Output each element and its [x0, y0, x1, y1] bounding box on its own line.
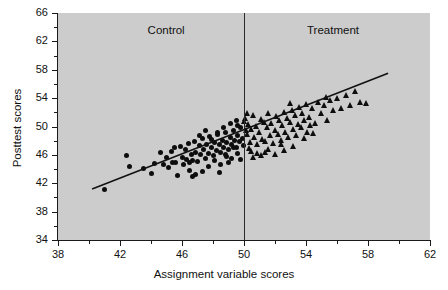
y-tick-label-62: 62	[22, 34, 48, 46]
x-tick-minor	[89, 241, 90, 244]
x-tick-label-58: 58	[353, 248, 383, 260]
y-tick-46	[52, 155, 57, 156]
y-tick-minor	[54, 112, 57, 113]
y-tick-label-50: 50	[22, 120, 48, 132]
y-tick-minor	[54, 141, 57, 142]
x-tick-label-46: 46	[167, 248, 197, 260]
x-tick-50	[244, 241, 245, 246]
y-tick-label-54: 54	[22, 91, 48, 103]
y-tick-38	[52, 212, 57, 213]
y-tick-label-42: 42	[22, 176, 48, 188]
x-tick-38	[58, 241, 59, 246]
x-tick-minor	[151, 241, 152, 244]
y-tick-62	[52, 41, 57, 42]
group-label-control: Control	[148, 24, 185, 36]
x-tick-minor	[213, 241, 214, 244]
x-tick-label-42: 42	[105, 248, 135, 260]
x-tick-58	[368, 241, 369, 246]
y-tick-50	[52, 127, 57, 128]
y-tick-minor	[54, 56, 57, 57]
y-tick-label-46: 46	[22, 148, 48, 160]
y-tick-54	[52, 98, 57, 99]
y-tick-label-34: 34	[22, 233, 48, 245]
cropped-caption-strip	[0, 279, 448, 290]
y-tick-label-66: 66	[22, 6, 48, 18]
x-tick-46	[182, 241, 183, 246]
y-tick-minor	[54, 27, 57, 28]
scatter-plot-figure: Control Treatment 3438424650545862663842…	[0, 0, 448, 290]
y-tick-minor	[54, 197, 57, 198]
y-tick-minor	[54, 84, 57, 85]
group-label-treatment: Treatment	[307, 24, 359, 36]
y-tick-minor	[54, 226, 57, 227]
y-tick-label-58: 58	[22, 63, 48, 75]
x-tick-42	[120, 241, 121, 246]
y-axis-title: Posttest scores	[11, 63, 23, 193]
y-tick-42	[52, 183, 57, 184]
y-axis-line	[57, 13, 58, 241]
x-tick-label-54: 54	[291, 248, 321, 260]
x-tick-label-50: 50	[229, 248, 259, 260]
x-tick-label-38: 38	[43, 248, 73, 260]
y-tick-minor	[54, 169, 57, 170]
x-tick-54	[306, 241, 307, 246]
y-tick-66	[52, 13, 57, 14]
x-tick-label-62: 62	[415, 248, 445, 260]
y-tick-58	[52, 70, 57, 71]
x-tick-minor	[275, 241, 276, 244]
y-tick-34	[52, 240, 57, 241]
x-tick-62	[430, 241, 431, 246]
x-tick-minor	[337, 241, 338, 244]
regression-line	[0, 0, 448, 290]
y-tick-label-38: 38	[22, 205, 48, 217]
x-tick-minor	[399, 241, 400, 244]
